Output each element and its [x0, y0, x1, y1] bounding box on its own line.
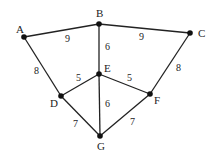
node-label-A: A: [16, 23, 24, 35]
edge-weight-F-G: 7: [130, 116, 135, 127]
edge-B-C: [99, 24, 190, 33]
weighted-graph-diagram: 9968855677 ABCDEFG: [0, 0, 214, 156]
edge-weight-E-G: 6: [105, 98, 110, 109]
edge-E-G: [99, 74, 100, 136]
node-C: [187, 30, 193, 36]
edge-weight-B-C: 9: [139, 31, 144, 42]
edge-A-D: [24, 37, 61, 96]
edge-weight-B-E: 6: [105, 41, 110, 52]
edge-weight-E-F: 5: [127, 72, 132, 83]
node-B: [96, 21, 102, 27]
edge-C-F: [150, 33, 190, 94]
edge-weight-A-B: 9: [65, 33, 70, 44]
node-label-E: E: [104, 62, 111, 74]
edge-A-B: [24, 24, 99, 37]
edge-E-F: [99, 74, 150, 94]
edge-D-G: [61, 96, 100, 136]
node-label-D: D: [50, 97, 58, 109]
node-label-F: F: [154, 94, 160, 106]
node-F: [147, 91, 153, 97]
edge-weight-D-G: 7: [73, 118, 78, 129]
node-G: [97, 133, 103, 139]
graph-nodes: [21, 21, 193, 139]
node-E: [96, 71, 102, 77]
node-label-B: B: [96, 7, 103, 19]
node-D: [58, 93, 64, 99]
edge-weight-C-F: 8: [176, 62, 181, 73]
node-labels: ABCDEFG: [16, 7, 205, 152]
node-label-G: G: [97, 140, 105, 152]
node-A: [21, 34, 27, 40]
edge-weight-D-E: 5: [76, 72, 81, 83]
edge-weight-A-D: 8: [34, 65, 39, 76]
node-label-C: C: [198, 27, 205, 39]
